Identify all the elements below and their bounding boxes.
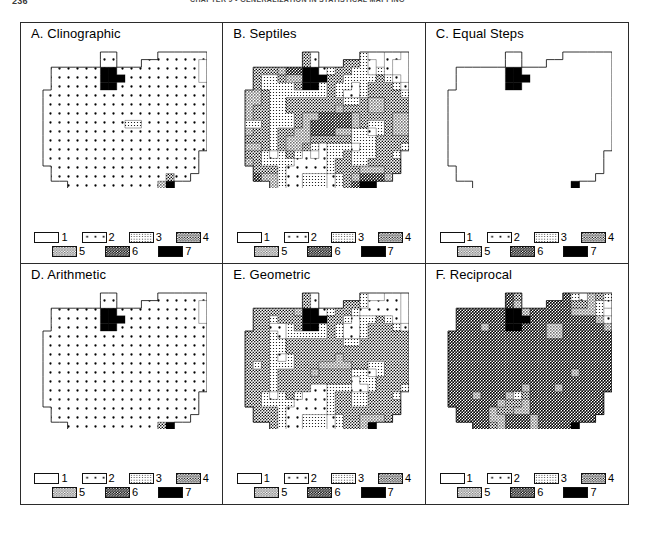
legend-item-7: 7 [158, 487, 191, 498]
legend-swatch-1 [440, 473, 465, 484]
legend-item-1: 1 [34, 473, 67, 484]
legend-swatch-5 [254, 246, 279, 257]
legend-item-6: 6 [510, 246, 543, 257]
legend-e: 1234567 [223, 473, 424, 498]
legend-label-7: 7 [185, 246, 191, 257]
legend-swatch-7 [563, 487, 588, 498]
legend-label-5: 5 [484, 487, 490, 498]
legend-item-7: 7 [563, 246, 596, 257]
legend-row: 567 [254, 487, 393, 498]
legend-label-6: 6 [537, 487, 543, 498]
legend-item-7: 7 [361, 246, 394, 257]
legend-swatch-6 [307, 246, 332, 257]
legend-item-7: 7 [158, 246, 191, 257]
legend-swatch-2 [284, 232, 309, 243]
legend-row: 567 [52, 487, 191, 498]
legend-label-3: 3 [561, 473, 567, 484]
legend-item-2: 2 [82, 232, 115, 243]
legend-swatch-7 [563, 246, 588, 257]
legend-label-1: 1 [467, 473, 473, 484]
legend-swatch-2 [487, 473, 512, 484]
legend-swatch-4 [378, 232, 403, 243]
legend-swatch-3 [534, 473, 559, 484]
legend-label-7: 7 [388, 487, 394, 498]
legend-row: 1234 [34, 473, 209, 484]
legend-row: 567 [52, 246, 191, 257]
legend-label-6: 6 [537, 246, 543, 257]
legend-label-4: 4 [608, 473, 614, 484]
legend-swatch-1 [34, 232, 59, 243]
legend-swatch-6 [510, 487, 535, 498]
legend-item-6: 6 [105, 246, 138, 257]
legend-label-6: 6 [334, 487, 340, 498]
legend-label-1: 1 [264, 232, 270, 243]
panel-title-c: C. Equal Steps [436, 26, 524, 41]
panel-title-a: A. Clinographic [31, 26, 121, 41]
map-panel-b: B. Septiles 1234567 [223, 23, 425, 264]
legend-swatch-7 [361, 246, 386, 257]
legend-swatch-4 [581, 232, 606, 243]
legend-swatch-1 [440, 232, 465, 243]
legend-f: 1234567 [426, 473, 628, 498]
panel-title-d: D. Arithmetic [31, 267, 106, 282]
legend-swatch-1 [237, 473, 262, 484]
legend-row: 567 [457, 487, 596, 498]
legend-label-4: 4 [405, 473, 411, 484]
legend-swatch-4 [176, 473, 201, 484]
legend-label-5: 5 [281, 246, 287, 257]
map-panel-d: D. Arithmetic 1234567 [21, 264, 223, 505]
legend-item-7: 7 [563, 487, 596, 498]
legend-label-7: 7 [185, 487, 191, 498]
legend-label-1: 1 [467, 232, 473, 243]
legend-swatch-7 [158, 487, 183, 498]
figure-panel-grid: A. Clinographic 1234567 B. Septiles 1234… [20, 22, 629, 505]
legend-b: 1234567 [223, 232, 424, 257]
legend-label-5: 5 [484, 246, 490, 257]
legend-item-1: 1 [34, 232, 67, 243]
choropleth-map-a [37, 46, 207, 188]
legend-swatch-4 [378, 473, 403, 484]
legend-row: 1234 [237, 232, 412, 243]
map-panel-c: C. Equal Steps 1234567 [426, 23, 628, 264]
legend-item-1: 1 [237, 473, 270, 484]
legend-item-3: 3 [129, 473, 162, 484]
legend-item-5: 5 [457, 487, 490, 498]
legend-row: 1234 [34, 232, 209, 243]
legend-swatch-1 [34, 473, 59, 484]
legend-swatch-7 [158, 246, 183, 257]
legend-swatch-6 [105, 487, 130, 498]
choropleth-map-c [442, 46, 612, 188]
legend-item-4: 4 [378, 473, 411, 484]
legend-item-6: 6 [105, 487, 138, 498]
legend-swatch-2 [82, 473, 107, 484]
legend-swatch-3 [331, 232, 356, 243]
legend-label-3: 3 [156, 473, 162, 484]
legend-item-2: 2 [487, 473, 520, 484]
page-folio: 236 [12, 0, 28, 6]
legend-item-2: 2 [284, 473, 317, 484]
legend-label-3: 3 [358, 473, 364, 484]
legend-swatch-6 [307, 487, 332, 498]
legend-swatch-5 [254, 487, 279, 498]
panel-title-f: F. Reciprocal [436, 267, 512, 282]
legend-item-2: 2 [284, 232, 317, 243]
legend-a: 1234567 [21, 232, 222, 257]
legend-item-5: 5 [254, 246, 287, 257]
legend-row: 567 [457, 246, 596, 257]
legend-item-5: 5 [52, 487, 85, 498]
legend-row: 1234 [440, 232, 615, 243]
legend-row: 1234 [440, 473, 615, 484]
legend-item-4: 4 [176, 232, 209, 243]
legend-label-1: 1 [264, 473, 270, 484]
legend-item-4: 4 [378, 232, 411, 243]
legend-item-3: 3 [534, 473, 567, 484]
legend-swatch-6 [510, 246, 535, 257]
legend-item-2: 2 [82, 473, 115, 484]
legend-item-1: 1 [440, 473, 473, 484]
legend-item-3: 3 [534, 232, 567, 243]
legend-label-2: 2 [514, 232, 520, 243]
chapter-running-title: CHAPTER 9 • GENERALIZATION IN STATISTICA… [190, 0, 405, 3]
legend-label-2: 2 [311, 473, 317, 484]
legend-item-5: 5 [52, 246, 85, 257]
choropleth-map-e [239, 287, 409, 429]
